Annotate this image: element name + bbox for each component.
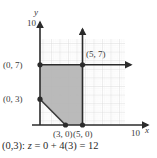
caption-equals-1: = bbox=[34, 140, 40, 151]
x-axis-max-tick-label: 10 bbox=[131, 128, 141, 138]
point-0-3 bbox=[37, 97, 42, 102]
caption-expression: 0 + 4(3) bbox=[43, 140, 77, 151]
point-5-0 bbox=[80, 122, 85, 127]
point-label-5-0: (5, 0) bbox=[73, 129, 93, 139]
point-label-3-0: (3, 0) bbox=[53, 129, 73, 139]
caption-vertex: (0,3): bbox=[2, 140, 25, 151]
graph-svg: y 10 10 x (0, 7) (0, 3) (5, 7) (3, 0) (5… bbox=[0, 0, 157, 158]
caption-equals-2: = bbox=[79, 140, 85, 151]
point-5-7 bbox=[80, 62, 85, 67]
point-0-7 bbox=[37, 62, 42, 67]
point-label-0-7: (0, 7) bbox=[3, 60, 23, 70]
point-3-0 bbox=[63, 122, 68, 127]
point-label-5-7: (5, 7) bbox=[86, 49, 106, 59]
point-label-0-3: (0, 3) bbox=[3, 94, 23, 104]
objective-value-caption: (0,3): z = 0 + 4(3) = 12 bbox=[2, 140, 99, 151]
x-axis-label: x bbox=[144, 125, 149, 135]
caption-result: 12 bbox=[88, 140, 99, 151]
y-axis-label: y bbox=[33, 7, 38, 17]
feasible-region-figure: y 10 10 x (0, 7) (0, 3) (5, 7) (3, 0) (5… bbox=[0, 0, 157, 158]
y-axis-max-tick-label: 10 bbox=[27, 18, 37, 28]
caption-variable: z bbox=[28, 140, 32, 151]
